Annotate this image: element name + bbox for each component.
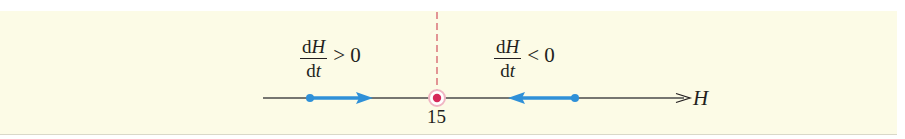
left-flow-arrow — [306, 92, 373, 104]
fraction-numerator: dH — [494, 37, 521, 56]
axis-variable-text: H — [693, 86, 708, 110]
derivative-fraction: dH dt — [494, 37, 521, 80]
phase-line-diagram — [0, 0, 905, 139]
left-flow-start-dot — [306, 94, 314, 102]
fraction-denominator: dt — [304, 61, 323, 80]
inequality-relation: < 0 — [527, 43, 555, 68]
fraction-bar — [494, 58, 521, 59]
fraction-denominator: dt — [498, 61, 517, 80]
equilibrium-value-label: 15 — [427, 107, 446, 126]
derivative-fraction: dH dt — [300, 37, 327, 80]
equilibrium-point — [429, 90, 445, 106]
right-region-derivative-label: dH dt < 0 — [494, 37, 555, 80]
axis-variable-label: H — [693, 88, 708, 109]
right-flow-arrow — [508, 92, 579, 104]
fraction-bar — [300, 58, 327, 59]
fraction-numerator: dH — [300, 37, 327, 56]
right-flow-start-dot — [571, 94, 579, 102]
inequality-relation: > 0 — [333, 43, 361, 68]
left-region-derivative-label: dH dt > 0 — [300, 37, 361, 80]
